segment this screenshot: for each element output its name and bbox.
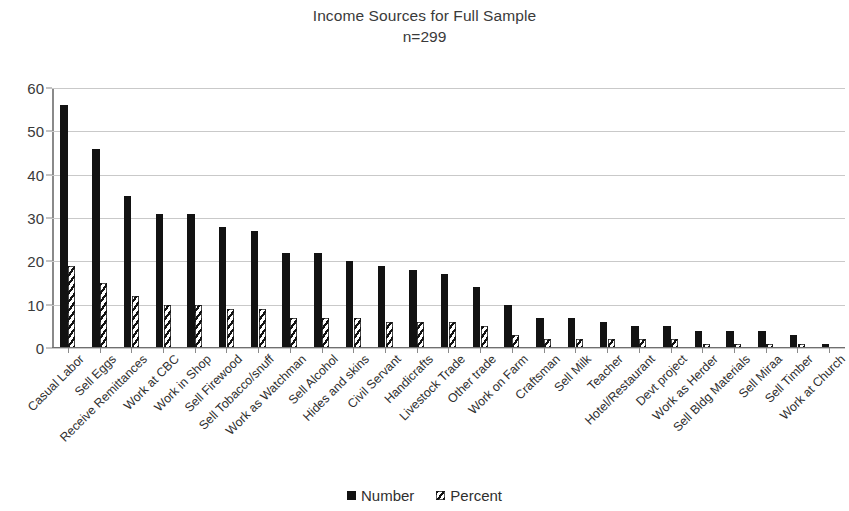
bar-group[interactable] [369, 88, 401, 348]
bar-group[interactable] [84, 88, 116, 348]
bar-percent[interactable] [100, 283, 107, 348]
bar-number[interactable] [124, 196, 132, 348]
bar-group[interactable] [433, 88, 465, 348]
bar-number[interactable] [663, 326, 671, 348]
bar-group[interactable] [179, 88, 211, 348]
bar-number[interactable] [187, 214, 195, 348]
bar-percent[interactable] [68, 266, 75, 348]
solid-square-icon [347, 491, 356, 500]
bar-group[interactable] [560, 88, 592, 348]
legend-item[interactable]: Number [347, 487, 414, 504]
bar-number[interactable] [346, 261, 354, 348]
y-axis-tick-label: 0 [0, 340, 44, 357]
bar-group[interactable] [115, 88, 147, 348]
bar-number[interactable] [568, 318, 576, 348]
legend-item[interactable]: Percent [436, 487, 502, 504]
y-axis-tick-label: 40 [0, 166, 44, 183]
bar-group[interactable] [464, 88, 496, 348]
bar-percent[interactable] [354, 318, 361, 348]
legend-label: Number [361, 487, 414, 504]
plot-area [52, 88, 845, 348]
bar-number[interactable] [473, 287, 481, 348]
bar-group[interactable] [211, 88, 243, 348]
bar-group[interactable] [306, 88, 338, 348]
bar-group[interactable] [274, 88, 306, 348]
bar-number[interactable] [251, 231, 259, 348]
bar-percent[interactable] [386, 322, 393, 348]
chart-container: Income Sources for Full Sample n=299 010… [0, 0, 849, 511]
bar-group[interactable] [686, 88, 718, 348]
chart-title-block: Income Sources for Full Sample n=299 [0, 6, 849, 48]
bar-percent[interactable] [417, 322, 424, 348]
bar-percent[interactable] [164, 305, 171, 348]
bars-layer [52, 88, 845, 348]
bar-number[interactable] [409, 270, 417, 348]
bar-group[interactable] [750, 88, 782, 348]
bar-group[interactable] [591, 88, 623, 348]
bar-percent[interactable] [290, 318, 297, 348]
bar-percent[interactable] [132, 296, 139, 348]
bar-group[interactable] [528, 88, 560, 348]
bar-number[interactable] [314, 253, 322, 348]
bar-number[interactable] [441, 274, 449, 348]
y-axis-tick-label: 50 [0, 123, 44, 140]
bar-group[interactable] [242, 88, 274, 348]
bar-percent[interactable] [481, 326, 488, 348]
bar-group[interactable] [401, 88, 433, 348]
chart-legend: NumberPercent [0, 487, 849, 504]
bar-group[interactable] [782, 88, 814, 348]
x-axis-labels: Casual LaborSell EggsReceive Remittances… [52, 352, 845, 472]
y-axis-labels: 0102030405060 [0, 88, 44, 348]
bar-percent[interactable] [322, 318, 329, 348]
chart-subtitle: n=299 [0, 27, 849, 48]
y-axis-tick-label: 30 [0, 210, 44, 227]
bar-number[interactable] [631, 326, 639, 348]
bar-number[interactable] [60, 105, 68, 348]
hatched-square-icon [436, 491, 445, 500]
bar-group[interactable] [147, 88, 179, 348]
bar-percent[interactable] [449, 322, 456, 348]
bar-number[interactable] [378, 266, 386, 348]
bar-number[interactable] [600, 322, 608, 348]
bar-number[interactable] [156, 214, 164, 348]
bar-number[interactable] [219, 227, 227, 348]
legend-label: Percent [450, 487, 502, 504]
bar-number[interactable] [504, 305, 512, 348]
bar-number[interactable] [758, 331, 766, 348]
bar-percent[interactable] [259, 309, 266, 348]
bar-group[interactable] [52, 88, 84, 348]
bar-group[interactable] [337, 88, 369, 348]
bar-group[interactable] [496, 88, 528, 348]
bar-group[interactable] [655, 88, 687, 348]
bar-number[interactable] [695, 331, 703, 348]
bar-number[interactable] [726, 331, 734, 348]
bar-group[interactable] [718, 88, 750, 348]
y-axis-tick-label: 20 [0, 253, 44, 270]
y-axis-tick-label: 60 [0, 80, 44, 97]
bar-group[interactable] [623, 88, 655, 348]
bar-group[interactable] [813, 88, 845, 348]
bar-percent[interactable] [227, 309, 234, 348]
bar-percent[interactable] [195, 305, 202, 348]
x-axis-baseline [52, 347, 845, 349]
bar-number[interactable] [92, 149, 100, 348]
y-axis-tick-label: 10 [0, 296, 44, 313]
bar-number[interactable] [536, 318, 544, 348]
bar-number[interactable] [282, 253, 290, 348]
chart-title: Income Sources for Full Sample [0, 6, 849, 27]
